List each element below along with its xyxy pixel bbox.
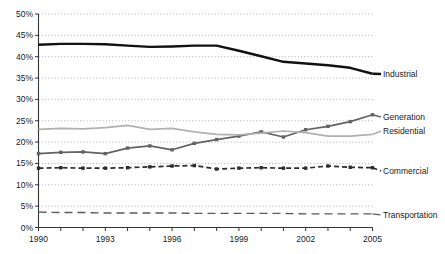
- series-leader-line: [373, 214, 382, 215]
- y-tick-label: 50%: [16, 9, 33, 19]
- y-tick-label: 15%: [16, 158, 33, 168]
- x-tick-label: 1996: [163, 234, 182, 244]
- y-tick-label: 40%: [16, 52, 33, 62]
- data-point-marker: [81, 166, 84, 169]
- data-point-marker: [37, 152, 40, 155]
- data-point-marker: [193, 142, 196, 145]
- data-point-marker: [37, 166, 40, 169]
- series-label-transportation: Transportation: [383, 210, 438, 220]
- series-line: [39, 212, 373, 214]
- series-label-commercial: Commercial: [383, 166, 428, 176]
- x-tick-label: 1990: [29, 234, 48, 244]
- data-point-marker: [148, 144, 151, 147]
- data-point-marker: [104, 166, 107, 169]
- y-tick-label: 5%: [21, 201, 34, 211]
- line-chart: 0%5%10%15%20%25%30%35%40%45%50% 19901993…: [0, 0, 445, 254]
- data-point-marker: [326, 125, 329, 128]
- x-tick-label: 2002: [296, 234, 315, 244]
- data-point-marker: [349, 120, 352, 123]
- series-label-industrial: Industrial: [383, 69, 418, 79]
- data-point-marker: [304, 128, 307, 131]
- y-tick-label: 10%: [16, 180, 33, 190]
- data-point-marker: [215, 167, 218, 170]
- data-point-marker: [304, 166, 307, 169]
- series-labels: IndustrialGenerationResidentialCommercia…: [373, 69, 438, 220]
- data-series: [37, 44, 374, 214]
- y-tick-label: 20%: [16, 137, 33, 147]
- x-axis-tick-labels: 199019931996199920022005: [29, 234, 382, 244]
- data-point-marker: [282, 135, 285, 138]
- series-transportation: [39, 212, 373, 214]
- series-line: [39, 166, 373, 169]
- data-point-marker: [126, 146, 129, 149]
- data-point-marker: [193, 164, 196, 167]
- data-point-marker: [59, 166, 62, 169]
- series-label-generation: Generation: [383, 112, 425, 122]
- data-point-marker: [81, 150, 84, 153]
- series-line: [39, 44, 373, 74]
- data-point-marker: [349, 166, 352, 169]
- x-tick-label: 2005: [363, 234, 382, 244]
- series-generation: [37, 113, 374, 155]
- y-tick-label: 30%: [16, 94, 33, 104]
- data-point-marker: [282, 166, 285, 169]
- y-tick-label: 25%: [16, 116, 33, 126]
- data-point-marker: [170, 148, 173, 151]
- series-commercial: [37, 164, 374, 171]
- data-point-marker: [170, 164, 173, 167]
- y-tick-label: 45%: [16, 30, 33, 40]
- x-tick-label: 1993: [96, 234, 115, 244]
- series-leader-line: [373, 131, 382, 134]
- data-point-marker: [59, 151, 62, 154]
- x-tick-label: 1999: [229, 234, 248, 244]
- data-point-marker: [326, 164, 329, 167]
- series-industrial: [39, 44, 373, 74]
- series-label-residential: Residential: [383, 126, 425, 136]
- data-point-marker: [148, 165, 151, 168]
- data-point-marker: [104, 152, 107, 155]
- data-point-marker: [237, 166, 240, 169]
- chart-container: 0%5%10%15%20%25%30%35%40%45%50% 19901993…: [0, 0, 445, 254]
- y-tick-label: 35%: [16, 73, 33, 83]
- data-point-marker: [259, 166, 262, 169]
- data-point-marker: [215, 138, 218, 141]
- y-axis-tick-labels: 0%5%10%15%20%25%30%35%40%45%50%: [16, 9, 33, 233]
- data-point-marker: [126, 166, 129, 169]
- y-tick-label: 0%: [21, 223, 34, 233]
- series-leader-line: [373, 115, 382, 117]
